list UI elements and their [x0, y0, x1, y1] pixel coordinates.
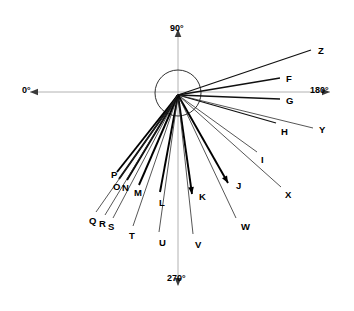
diagram-canvas [0, 0, 354, 311]
axis-90-label: 90° [170, 24, 184, 33]
ray-label-P: P [111, 170, 117, 180]
axis-0-label: 0° [22, 86, 31, 95]
axis-arrow-0 [30, 89, 38, 96]
ray-label-I: I [261, 155, 264, 165]
axis-group [30, 29, 330, 286]
ray-label-M: M [134, 188, 142, 198]
ray-label-U: U [159, 238, 166, 248]
ray-label-T: T [129, 231, 135, 241]
ray-label-H: H [281, 127, 288, 137]
ray-label-O: O [113, 182, 121, 192]
ray-label-F: F [286, 74, 292, 84]
ray-label-L: L [159, 198, 165, 208]
ray-line-H [178, 95, 276, 123]
ray-label-Q: Q [89, 216, 97, 226]
ray-label-R: R [99, 219, 106, 229]
ray-line-X [178, 95, 281, 187]
ray-label-N: N [122, 183, 129, 193]
ray-label-J: J [236, 181, 241, 191]
axis-270-label: 270° [167, 274, 186, 283]
ray-label-Z: Z [318, 46, 324, 56]
ray-line-I [178, 95, 257, 152]
ray-line-S [113, 95, 178, 218]
ray-label-X: X [285, 190, 291, 200]
polar-ray-diagram: ZFGHYIXJWKVLUMTNSORPQ 0°90°180°270° [0, 0, 354, 311]
ray-label-V: V [195, 240, 201, 250]
ray-label-Y: Y [319, 125, 325, 135]
ray-label-K: K [199, 192, 206, 202]
ray-label-W: W [241, 222, 250, 232]
ray-line-J [178, 95, 228, 183]
ray-label-S: S [108, 222, 114, 232]
ray-label-G: G [286, 96, 294, 106]
ray-group [96, 50, 313, 234]
axis-180-label: 180° [310, 86, 329, 95]
